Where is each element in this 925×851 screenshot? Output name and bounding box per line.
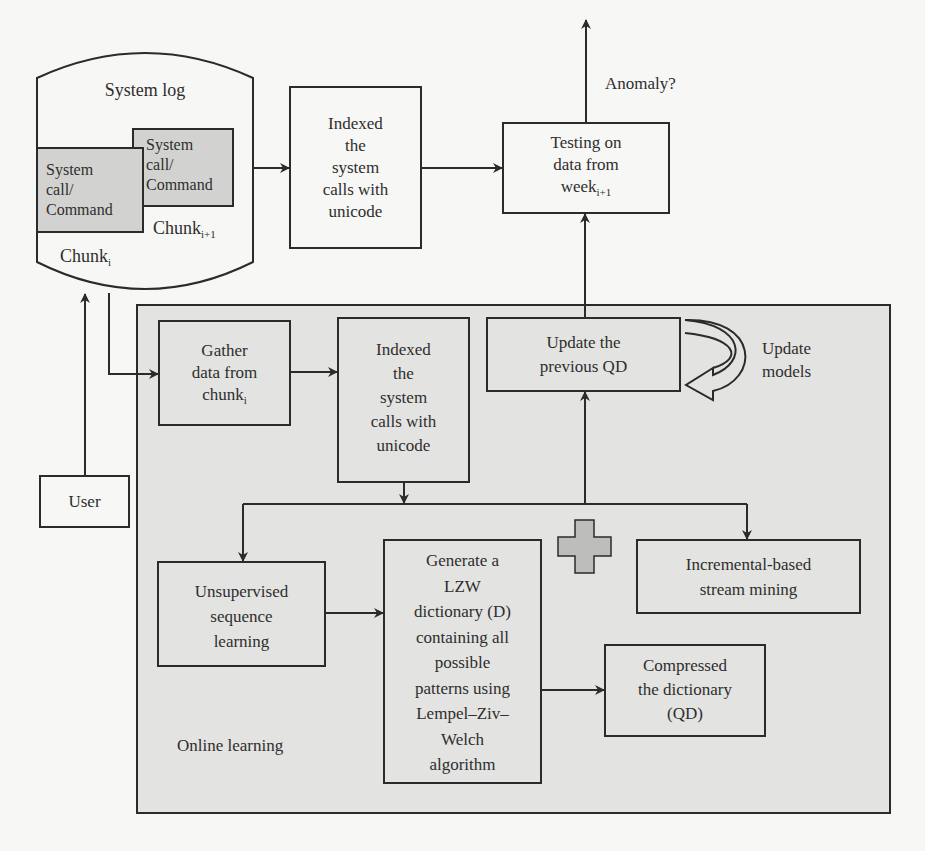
chunk-i-label: Chunki — [60, 246, 111, 266]
system-log-title: System log — [75, 80, 215, 100]
update-models-label: Update models — [762, 337, 811, 383]
user-label: User — [40, 492, 129, 512]
compressed-label: Compressed the dictionary (QD) — [605, 654, 765, 726]
incremental-label: Incremental-based stream mining — [637, 552, 860, 602]
gather-label: Gather data from chunki — [159, 340, 290, 406]
chunk-i1-label: Chunki+1 — [153, 218, 216, 238]
indexed-label: Indexed the system calls with unicode — [338, 338, 469, 458]
unsupervised-label: Unsupervised sequence learning — [158, 579, 325, 654]
chunk-i1-text: System call/ Command — [146, 135, 236, 195]
online-learning-label: Online learning — [177, 736, 283, 756]
top-indexed-label: Indexed the system calls with unicode — [290, 113, 421, 223]
update-qd-label: Update the previous QD — [487, 331, 680, 379]
testing-label: Testing on data from weeki+1 — [503, 132, 669, 198]
anomaly-label: Anomaly? — [605, 74, 676, 94]
lzw-label: Generate a LZW dictionary (D) containing… — [384, 548, 541, 778]
chunk-i-text: System call/ Command — [46, 160, 141, 220]
